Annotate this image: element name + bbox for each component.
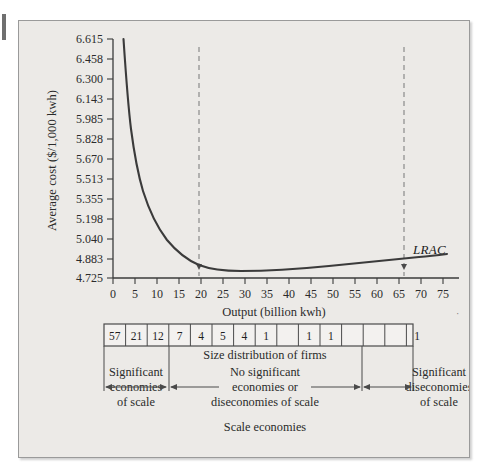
x-tick-label: 10 <box>151 287 163 301</box>
bracket-middle-line3: diseconomies of scale <box>211 395 319 409</box>
bracket-right: Significant diseconomies of scale <box>363 365 469 409</box>
bracket-right-line1: Significant <box>412 365 467 379</box>
x-tick-label: 30 <box>239 287 251 301</box>
y-tick-label: 6.615 <box>76 32 103 46</box>
page-speck: · <box>456 308 459 319</box>
y-tick-label: 5.198 <box>76 212 103 226</box>
bracket-right-line3: of scale <box>420 395 458 409</box>
y-tick-label: 5.355 <box>76 192 103 206</box>
x-tick-label: 60 <box>371 287 383 301</box>
x-axis-ticks <box>113 278 443 284</box>
firm-distribution-boxes: 57 21 12 7 4 5 4 1 1 1 1 <box>104 324 420 346</box>
y-tick-label: 5.985 <box>76 112 103 126</box>
figure-root: Average cost ($/1,000 kwh) <box>0 0 503 476</box>
x-axis-title: Output (billion kwh) <box>222 305 325 319</box>
y-axis-ticks <box>107 39 113 278</box>
reference-lines <box>196 47 407 276</box>
x-tick-label: 50 <box>327 287 339 301</box>
distribution-cell: 4 <box>198 330 204 342</box>
x-tick-label: 15 <box>173 287 185 301</box>
x-tick-label: 0 <box>110 287 116 301</box>
x-tick-label: 20 <box>195 287 207 301</box>
axis-lines <box>113 39 459 278</box>
x-tick-label: 25 <box>217 287 229 301</box>
x-tick-label: 55 <box>349 287 361 301</box>
x-axis-tick-labels: 0 5 10 15 20 25 30 35 40 45 50 55 60 65 … <box>110 287 449 301</box>
distribution-cell: 1 <box>306 330 312 342</box>
y-tick-label: 5.828 <box>76 132 103 146</box>
x-tick-label: 70 <box>415 287 427 301</box>
distribution-caption: Size distribution of firms <box>203 348 327 362</box>
distribution-cell: 1 <box>414 330 420 342</box>
scale-economies-footer: Scale economies <box>224 420 307 434</box>
distribution-box-outline <box>104 324 413 346</box>
x-tick-label: 75 <box>437 287 449 301</box>
y-tick-label: 6.300 <box>76 72 103 86</box>
distribution-cell: 1 <box>263 330 269 342</box>
marker-arrow-diseconomies <box>401 264 407 270</box>
figure-panel: Average cost ($/1,000 kwh) <box>18 20 470 458</box>
y-tick-label: 4.725 <box>76 271 103 285</box>
bracket-right-line2: diseconomies <box>406 380 469 394</box>
x-tick-label: 5 <box>132 287 138 301</box>
lrac-label: LRAC <box>412 242 446 257</box>
bracket-left-line3: of scale <box>117 395 155 409</box>
bracket-middle: No significant economies or diseconomies… <box>170 365 361 409</box>
economies-of-scale-chart: 6.615 6.458 6.300 6.143 5.985 5.828 5.67… <box>19 21 469 457</box>
y-tick-label: 5.670 <box>76 152 103 166</box>
y-tick-label: 4.883 <box>76 252 103 266</box>
distribution-cell: 1 <box>328 330 334 342</box>
distribution-cell: 5 <box>220 330 226 342</box>
bracket-middle-line1: No significant <box>230 365 301 379</box>
distribution-cell: 12 <box>152 330 164 342</box>
lrac-curve <box>124 39 448 271</box>
distribution-cell: 4 <box>242 330 248 342</box>
y-tick-label: 6.458 <box>76 52 103 66</box>
distribution-cell: 21 <box>131 330 143 342</box>
x-tick-label: 45 <box>305 287 317 301</box>
bracket-middle-line2: economies or <box>232 380 298 394</box>
distribution-cell: 7 <box>177 330 183 342</box>
bracket-left: Significant economies of scale <box>105 365 167 409</box>
y-tick-label: 5.513 <box>76 172 103 186</box>
x-tick-label: 65 <box>393 287 405 301</box>
page-edge-artifact <box>2 14 6 40</box>
distribution-cell: 57 <box>109 330 121 342</box>
y-tick-label: 5.040 <box>76 232 103 246</box>
x-tick-label: 35 <box>261 287 273 301</box>
y-tick-label: 6.143 <box>76 92 103 106</box>
y-axis-tick-labels: 6.615 6.458 6.300 6.143 5.985 5.828 5.67… <box>76 32 103 285</box>
bracket-left-line1: Significant <box>109 365 164 379</box>
x-tick-label: 40 <box>283 287 295 301</box>
